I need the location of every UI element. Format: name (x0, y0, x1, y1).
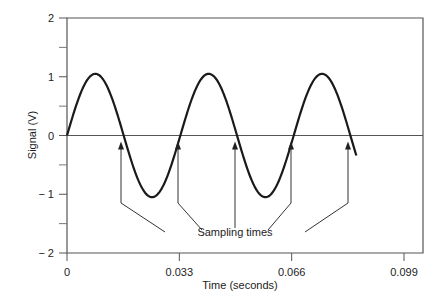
sampling-times-label: Sampling times (197, 226, 273, 238)
y-tick-label: 2 (48, 12, 54, 24)
y-tick-label: 0 (48, 130, 54, 142)
y-tick-label: 1 (48, 71, 54, 83)
x-tick-label: 0 (64, 266, 70, 278)
y-tick-label: − 2 (38, 247, 54, 259)
x-axis-title: Time (seconds) (202, 279, 277, 291)
y-axis-title: Signal (V) (26, 111, 38, 159)
tick-labels: − 2− 101200.0330.0660.099 (38, 12, 417, 278)
x-tick-label: 0.099 (390, 266, 418, 278)
sampling-arrows (118, 142, 351, 233)
x-tick-label: 0.033 (166, 266, 194, 278)
sine-sampling-chart: − 2− 101200.0330.0660.099 Sampling times… (0, 0, 445, 307)
x-tick-label: 0.066 (278, 266, 306, 278)
y-tick-label: − 1 (38, 188, 54, 200)
